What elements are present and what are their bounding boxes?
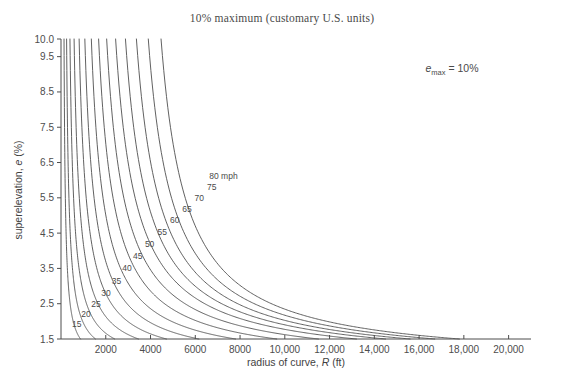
y-tick-label: 2.5: [40, 298, 54, 309]
curve-label-60: 60: [170, 215, 180, 225]
x-tick-label: 14,000: [359, 344, 390, 355]
speed-curve-50: [99, 39, 277, 339]
y-tick-label: 1.5: [40, 334, 54, 345]
x-tick-label: 4000: [139, 344, 162, 355]
x-tick-label: 12,000: [314, 344, 345, 355]
y-tick-label: 7.5: [40, 122, 54, 133]
x-axis-title: radius of curve, R (ft): [247, 356, 345, 368]
y-tick-label: 5.5: [40, 192, 54, 203]
x-tick-label: 6000: [184, 344, 207, 355]
curve-label-40: 40: [122, 263, 132, 273]
bottom-caption: [0, 380, 564, 389]
curve-label-45: 45: [133, 251, 143, 261]
curve-label-65: 65: [182, 204, 192, 214]
y-tick-label: 8.5: [40, 86, 54, 97]
curve-label-70: 70: [195, 193, 205, 203]
x-tick-label: 8000: [229, 344, 252, 355]
curve-labels-group: 1520253035404550556065707580 mph: [72, 171, 238, 328]
y-tick-label: 10.0: [35, 34, 55, 45]
y-axis-title: superelevation, e (%): [12, 140, 24, 239]
x-tick-label: 16,000: [404, 344, 435, 355]
x-tick-label: 2000: [95, 344, 118, 355]
y-tick-label: 6.5: [40, 157, 54, 168]
y-tick-group: 1.52.53.54.55.56.57.58.59.510.0: [35, 34, 61, 345]
chart-page: 10% maximum (customary U.S. units) 1.52.…: [0, 0, 564, 389]
curve-label-20: 20: [81, 309, 91, 319]
curve-label-50: 50: [145, 239, 155, 249]
curve-label-15: 15: [72, 319, 82, 329]
x-tick-label: 20,000: [493, 344, 524, 355]
curve-label-30: 30: [101, 288, 111, 298]
curve-label-80-mph: 80 mph: [209, 171, 238, 181]
axes-group: [61, 39, 531, 339]
curve-label-25: 25: [91, 299, 101, 309]
y-tick-label: 4.5: [40, 228, 54, 239]
speed-curve-75: [148, 39, 434, 339]
emax-annotation: emax = 10%: [426, 62, 479, 77]
curves-group: [64, 39, 459, 339]
speed-curve-15: [64, 39, 80, 339]
speed-curve-65: [125, 39, 385, 339]
x-tick-label: 18,000: [449, 344, 480, 355]
speed-curve-70: [136, 39, 410, 339]
curve-label-55: 55: [157, 227, 167, 237]
superelevation-plot: 1.52.53.54.55.56.57.58.59.510.0 20004000…: [0, 0, 564, 389]
x-tick-label: 10,000: [270, 344, 301, 355]
y-tick-label: 3.5: [40, 263, 54, 274]
y-tick-label: 9.5: [40, 51, 54, 62]
curve-label-35: 35: [112, 276, 122, 286]
curve-label-75: 75: [207, 182, 217, 192]
